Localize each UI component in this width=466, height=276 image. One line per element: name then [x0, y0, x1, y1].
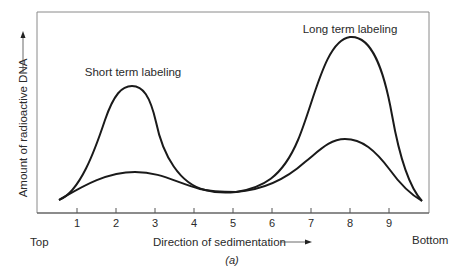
- tick-label: 7: [308, 217, 314, 229]
- tick-label: 1: [74, 217, 80, 229]
- short-term-labeling-curve: [59, 37, 422, 201]
- long-term-labeling-curve: [59, 139, 422, 201]
- annotation-short-term: Short term labeling: [85, 66, 182, 78]
- tick-label: 5: [230, 217, 236, 229]
- y-axis-label: Amount of radioactive DNA: [17, 58, 29, 197]
- x-tick-labels: 1 2 3 4 5 6 7 8 9: [74, 217, 392, 229]
- x-axis-label: Direction of sedimentation: [153, 236, 286, 248]
- x-end-label-bottom: Bottom: [412, 234, 448, 246]
- annotation-long-term: Long term labeling: [303, 23, 398, 35]
- sedimentation-chart: 1 2 3 4 5 6 7 8 9 Amount of radioactive …: [0, 0, 466, 276]
- tick-label: 8: [347, 217, 353, 229]
- tick-label: 4: [191, 217, 197, 229]
- figure-caption: (a): [225, 254, 239, 266]
- x-end-label-top: Top: [30, 236, 49, 248]
- tick-label: 3: [152, 217, 158, 229]
- tick-label: 6: [269, 217, 275, 229]
- plot-frame: [37, 12, 429, 213]
- tick-label: 9: [386, 217, 392, 229]
- x-ticks: [77, 208, 389, 213]
- tick-label: 2: [113, 217, 119, 229]
